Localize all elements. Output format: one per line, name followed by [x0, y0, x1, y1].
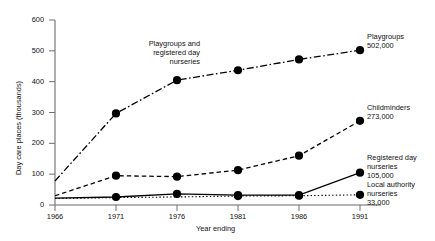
y-tick-marks — [49, 20, 55, 205]
series-line-childminders — [55, 121, 360, 196]
x-tick-label: 1971 — [96, 212, 136, 221]
data-point — [173, 173, 181, 181]
x-tick-marks — [55, 205, 360, 211]
data-point — [234, 192, 242, 200]
data-point — [356, 46, 364, 54]
x-tick-label: 1981 — [218, 212, 258, 221]
data-point — [295, 192, 303, 200]
label-local-value: 33,000 — [367, 199, 415, 208]
x-tick-label: 1991 — [340, 212, 380, 221]
data-point — [295, 152, 303, 160]
x-tick-label: 1986 — [279, 212, 319, 221]
label-childminders: Childminders 273,000 — [367, 104, 410, 122]
y-axis-title: Day care places (thousands) — [14, 81, 23, 175]
series-line-registered-day-nurseries — [55, 173, 360, 199]
x-tick-label: 1966 — [35, 212, 75, 221]
data-point — [234, 166, 242, 174]
data-point — [112, 193, 120, 201]
x-axis-title: Year ending — [196, 224, 235, 233]
y-tick-label: 600 — [18, 15, 44, 24]
chart-container: 0100200300400500600 19661971197619811986… — [0, 0, 435, 241]
y-tick-label: 0 — [18, 200, 44, 209]
label-local-authority-nurseries: Local authority nurseries 33,000 — [367, 181, 415, 207]
series-line-playgroups — [55, 50, 360, 181]
label-playgroups: Playgroups 502,000 — [367, 33, 404, 51]
data-point — [112, 109, 120, 117]
data-point — [234, 66, 242, 74]
y-tick-label: 500 — [18, 46, 44, 55]
data-point — [295, 55, 303, 63]
data-point — [173, 76, 181, 84]
axes-group — [55, 20, 381, 205]
annotation-line-3: nurseries — [105, 58, 200, 67]
label-childminders-value: 273,000 — [367, 113, 410, 122]
data-point — [356, 169, 364, 177]
x-tick-label: 1976 — [157, 212, 197, 221]
label-playgroups-value: 502,000 — [367, 42, 404, 51]
annotation-playgroups-inline: Playgroups and registered day nurseries — [105, 40, 200, 66]
data-series-group — [55, 46, 364, 201]
data-point — [356, 117, 364, 125]
label-registered-day-nurseries: Registered day nurseries 105,000 — [367, 154, 417, 180]
data-point — [112, 172, 120, 180]
data-point — [356, 191, 364, 199]
